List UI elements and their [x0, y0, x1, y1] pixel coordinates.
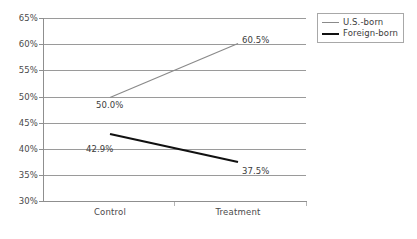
legend-line-icon-foreign-born: [322, 33, 339, 35]
data-label-foreign-born-control: 42.9%: [86, 145, 114, 154]
data-label-foreign-born-treatment: 37.5%: [242, 167, 270, 176]
legend: U.S.-born Foreign-born: [317, 13, 404, 43]
line-chart: 65% 60% 55% 50% 45% 40% 35% 30% 50.0% 60…: [0, 0, 417, 239]
series-line-foreign-born: [110, 134, 238, 162]
x-axis-label-control: Control: [72, 207, 148, 217]
legend-line-icon-us-born: [322, 22, 339, 23]
legend-label-foreign-born: Foreign-born: [343, 28, 398, 39]
data-label-us-born-treatment: 60.5%: [242, 36, 270, 45]
legend-item-foreign-born[interactable]: Foreign-born: [322, 28, 398, 39]
legend-label-us-born: U.S.-born: [343, 17, 383, 28]
legend-item-us-born[interactable]: U.S.-born: [322, 17, 398, 28]
x-axis-label-treatment: Treatment: [200, 207, 276, 217]
data-label-us-born-control: 50.0%: [96, 101, 124, 110]
series-line-us-born: [110, 44, 238, 98]
